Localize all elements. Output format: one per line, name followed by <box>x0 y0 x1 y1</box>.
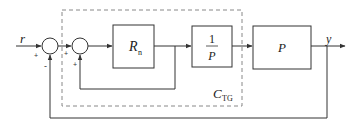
controller-label: C <box>213 86 222 101</box>
output-y-label: y <box>325 32 332 46</box>
sum1-minus-sign: - <box>44 61 47 71</box>
plant-p-label: P <box>277 40 286 55</box>
rn-block-label: R <box>128 39 138 54</box>
rn-block-subscript: n <box>138 48 142 57</box>
summing-junction-2 <box>72 38 88 54</box>
summing-junction-1 <box>42 38 58 54</box>
sum2-bottom-plus-sign: + <box>73 61 77 68</box>
controller-label-subscript: TG <box>222 94 233 103</box>
sum1-plus-sign: + <box>34 52 38 59</box>
sum2-left-plus-sign: + <box>64 50 68 57</box>
inverse-p-numerator: 1 <box>209 32 215 46</box>
inverse-p-denominator: P <box>207 49 216 63</box>
input-r-label: r <box>20 31 26 46</box>
block-diagram: r + - + + R n 1 P P y C TG <box>0 0 358 127</box>
